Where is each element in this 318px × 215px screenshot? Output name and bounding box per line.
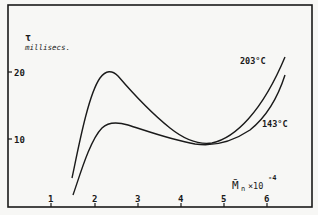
x-tick-label-1: 1 bbox=[48, 194, 53, 204]
x-tick-label-5: 5 bbox=[221, 194, 226, 204]
x-tick-label-4: 4 bbox=[178, 194, 184, 204]
svg-text:M̄: M̄ bbox=[232, 179, 239, 192]
series-label-143c: 143°C bbox=[262, 119, 288, 129]
x-tick-label-6: 6 bbox=[264, 194, 269, 204]
y-axis-unit: millisecs. bbox=[24, 43, 70, 52]
chart: 20 10 1 2 3 4 5 6 τ millisecs. M̄ n ×10 … bbox=[0, 0, 318, 215]
x-tick-label-2: 2 bbox=[92, 194, 97, 204]
x-axis-label: M̄ n ×10 -4 bbox=[232, 174, 276, 193]
y-tick-label-20: 20 bbox=[14, 68, 25, 78]
curve-203c bbox=[72, 57, 285, 178]
x-tick-label-3: 3 bbox=[135, 194, 140, 204]
y-tick-label-10: 10 bbox=[14, 135, 25, 145]
series-label-203c: 203°C bbox=[240, 56, 266, 66]
svg-text:-4: -4 bbox=[268, 174, 276, 182]
y-axis-symbol: τ bbox=[25, 32, 31, 43]
chart-frame bbox=[8, 5, 312, 207]
svg-text:×10: ×10 bbox=[248, 181, 263, 191]
svg-text:n: n bbox=[241, 185, 245, 193]
